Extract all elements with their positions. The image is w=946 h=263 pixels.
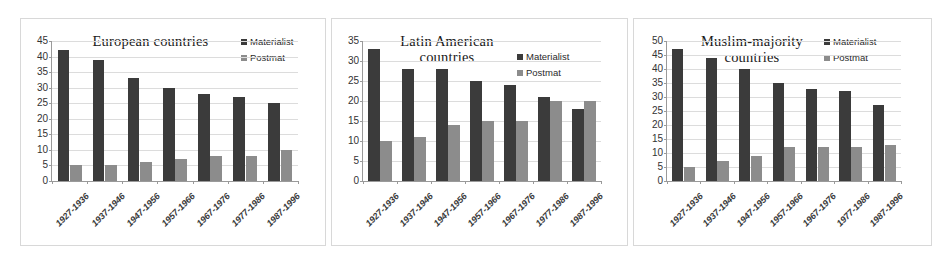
x-axis-tick <box>601 181 602 184</box>
y-axis-tick-label: 5 <box>657 162 663 172</box>
chart-plot-wrapper: Muslim-majority countriesMaterialistPost… <box>634 19 931 245</box>
bar-group <box>397 41 431 181</box>
bar-materialist <box>368 49 379 181</box>
y-axis-tick-label: 0 <box>657 176 663 186</box>
x-axis-tick <box>767 181 768 184</box>
bar-group <box>868 41 901 181</box>
bar-materialist <box>706 58 717 181</box>
bar-postmat <box>684 167 695 181</box>
x-axis-tick <box>700 181 701 184</box>
x-axis-tick <box>122 181 123 184</box>
bar-group <box>465 41 499 181</box>
y-axis-tick-label: 45 <box>37 36 48 46</box>
bar-group <box>122 41 157 181</box>
x-axis-tick <box>499 181 500 184</box>
bar-materialist <box>470 81 481 181</box>
x-axis-tick <box>667 181 668 184</box>
y-axis-tick-label: 5 <box>42 160 48 170</box>
bar-postmat <box>281 150 293 181</box>
y-axis-tick-label: 15 <box>348 116 359 126</box>
y-axis-tick-label: 10 <box>348 136 359 146</box>
y-axis-tick-label: 5 <box>353 156 359 166</box>
y-axis-tick-label: 15 <box>652 134 663 144</box>
chart-plot-wrapper: Latin American countriesMaterialistPostm… <box>332 19 627 245</box>
bar-postmat <box>584 101 595 181</box>
x-axis-tick <box>801 181 802 184</box>
bar-postmat <box>175 159 187 181</box>
bar-materialist <box>504 85 515 181</box>
x-axis-tick <box>263 181 264 184</box>
plot-area <box>666 41 901 182</box>
chart-panel-latin-american-countries: Latin American countriesMaterialistPostm… <box>331 18 628 246</box>
plot-area <box>51 41 298 182</box>
bar-postmat <box>818 147 829 181</box>
y-axis-tick-label: 35 <box>652 78 663 88</box>
bar-materialist <box>93 60 105 181</box>
bar-postmat <box>784 147 795 181</box>
bar-group <box>52 41 87 181</box>
bar-materialist <box>538 97 549 181</box>
bar-materialist <box>58 50 70 181</box>
x-axis-tick <box>734 181 735 184</box>
bar-materialist <box>873 105 884 181</box>
bar-group <box>700 41 733 181</box>
bar-group <box>567 41 601 181</box>
bar-postmat <box>550 101 561 181</box>
bar-materialist <box>233 97 245 181</box>
bar-group <box>734 41 767 181</box>
bar-group <box>193 41 228 181</box>
bar-materialist <box>806 89 817 181</box>
y-axis-tick-label: 25 <box>348 76 359 86</box>
bar-group <box>801 41 834 181</box>
bar-postmat <box>210 156 222 181</box>
bar-group <box>87 41 122 181</box>
y-axis-tick-label: 0 <box>353 176 359 186</box>
bar-group <box>157 41 192 181</box>
x-axis-tick <box>157 181 158 184</box>
bar-materialist <box>163 88 175 181</box>
bar-materialist <box>128 78 140 181</box>
bar-group <box>228 41 263 181</box>
x-axis-tick <box>87 181 88 184</box>
x-axis-tick <box>834 181 835 184</box>
y-axis-labels: 05101520253035 <box>337 41 359 181</box>
bar-materialist <box>773 83 784 181</box>
y-axis-tick-label: 40 <box>652 64 663 74</box>
plot-area <box>362 41 601 182</box>
bar-group <box>431 41 465 181</box>
x-axis-tick <box>901 181 902 184</box>
y-axis-tick-label: 30 <box>652 92 663 102</box>
bar-materialist <box>402 69 413 181</box>
bar-postmat <box>482 121 493 181</box>
x-axis-tick <box>397 181 398 184</box>
bar-postmat <box>851 147 862 181</box>
bar-postmat <box>414 137 425 181</box>
bar-postmat <box>140 162 152 181</box>
bar-postmat <box>717 161 728 181</box>
bar-postmat <box>885 145 896 181</box>
figure-root: European countriesMaterialistPostmat0510… <box>0 0 946 263</box>
bar-group <box>263 41 298 181</box>
x-axis-tick <box>465 181 466 184</box>
bar-group <box>834 41 867 181</box>
y-axis-tick-label: 45 <box>652 50 663 60</box>
bar-postmat <box>246 156 258 181</box>
y-axis-tick-label: 30 <box>348 56 359 66</box>
y-axis-tick-label: 10 <box>37 145 48 155</box>
chart-panel-european-countries: European countriesMaterialistPostmat0510… <box>20 18 326 246</box>
y-axis-tick-label: 0 <box>42 176 48 186</box>
bar-group <box>499 41 533 181</box>
bar-postmat <box>70 165 82 181</box>
bar-postmat <box>380 141 391 181</box>
x-axis-tick <box>868 181 869 184</box>
bar-group <box>767 41 800 181</box>
x-axis-tick <box>228 181 229 184</box>
bar-materialist <box>268 103 280 181</box>
y-axis-tick-label: 20 <box>652 120 663 130</box>
y-axis-tick-label: 25 <box>652 106 663 116</box>
y-axis-tick-label: 35 <box>348 36 359 46</box>
bar-postmat <box>448 125 459 181</box>
chart-plot-wrapper: European countriesMaterialistPostmat0510… <box>21 19 325 245</box>
y-axis-tick-label: 20 <box>37 114 48 124</box>
y-axis-labels: 05101520253035404550 <box>641 41 663 181</box>
